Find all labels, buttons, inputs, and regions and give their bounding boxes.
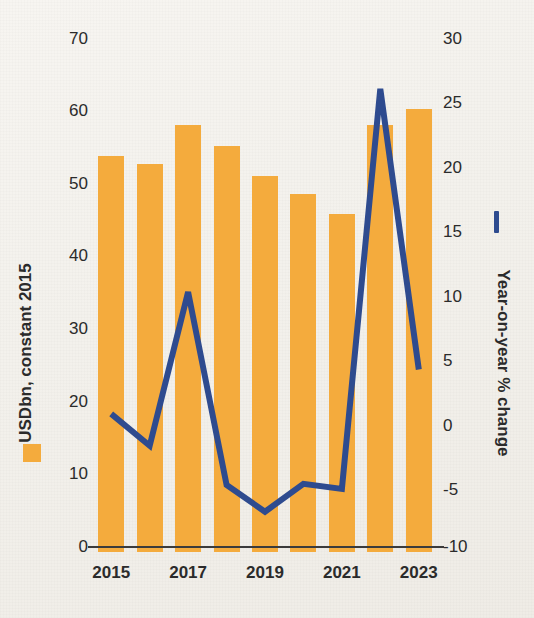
x-axis-tick-2015: 2015 — [92, 563, 130, 583]
x-axis-tick-group: 20152017201920212023 — [0, 0, 534, 618]
x-axis-tick-2019: 2019 — [246, 563, 284, 583]
chart-container: 70 60 50 40 30 20 10 0 30 25 20 15 10 5 … — [0, 0, 534, 618]
x-axis-tick-2021: 2021 — [323, 563, 361, 583]
x-axis-tick-2017: 2017 — [169, 563, 207, 583]
x-axis-tick-2023: 2023 — [400, 563, 438, 583]
